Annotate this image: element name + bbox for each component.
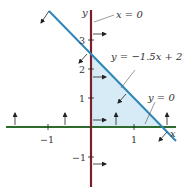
x-axis-label: x [170, 128, 176, 139]
y-axis-label: y [81, 7, 88, 18]
tick-label-y-3: 3 [79, 35, 85, 46]
tick-label-y-2: 2 [79, 64, 85, 75]
leader-x0 [94, 15, 114, 22]
inequality-diagram: y x x = 0 y = −1.5x + 2.5 y = 0 −1 1 3 2… [0, 0, 183, 195]
label-slant: y = −1.5x + 2.5 [110, 51, 183, 62]
tick-label-y-neg1: −1 [72, 152, 86, 163]
leader-slant [121, 70, 135, 88]
tick-label-x-1: 1 [131, 134, 137, 145]
tick-label-x-neg1: −1 [40, 134, 54, 145]
label-y0: y = 0 [147, 92, 175, 103]
tick-label-y-1: 1 [79, 93, 85, 104]
label-x0: x = 0 [116, 9, 143, 20]
